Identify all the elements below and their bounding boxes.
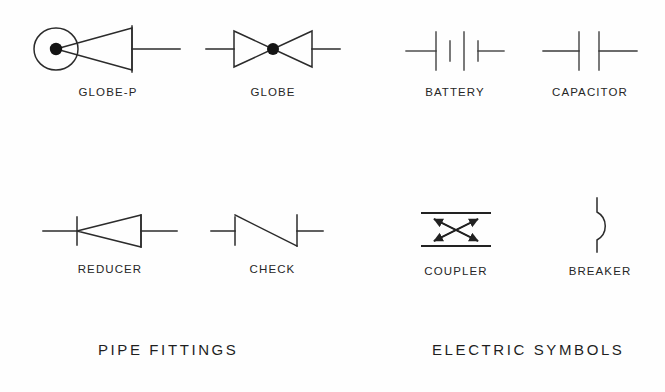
- symbol-cell-coupler: COUPLER: [408, 205, 504, 277]
- globe-icon: [198, 24, 348, 74]
- symbol-label-globe-p: GLOBE-P: [79, 86, 138, 98]
- globe-p-icon: [28, 18, 188, 80]
- symbol-label-capacitor: CAPACITOR: [552, 86, 628, 98]
- coupler-icon: [408, 205, 504, 253]
- symbol-label-battery: BATTERY: [425, 86, 485, 98]
- breaker-icon: [545, 194, 655, 254]
- symbol-cell-battery: BATTERY: [400, 24, 510, 98]
- check-icon: [205, 205, 340, 249]
- symbol-cell-globe: GLOBE: [198, 24, 348, 98]
- section-title-pipe-fittings: PIPE FITTINGS: [98, 341, 238, 358]
- symbol-cell-capacitor: CAPACITOR: [535, 24, 645, 98]
- symbol-label-breaker: BREAKER: [569, 265, 632, 277]
- symbol-label-globe: GLOBE: [250, 86, 295, 98]
- symbol-cell-reducer: REDUCER: [35, 205, 185, 275]
- symbol-cell-breaker: BREAKER: [545, 194, 655, 277]
- symbol-legend-sheet: GLOBE-P GLOBE BATTERY: [0, 0, 665, 392]
- battery-icon: [400, 24, 510, 74]
- reducer-icon: [35, 205, 185, 249]
- capacitor-icon: [535, 24, 645, 74]
- symbol-cell-check: CHECK: [205, 205, 340, 275]
- section-title-electric-symbols: ELECTRIC SYMBOLS: [432, 341, 624, 358]
- symbol-label-check: CHECK: [250, 263, 296, 275]
- symbol-label-coupler: COUPLER: [424, 265, 487, 277]
- symbol-label-reducer: REDUCER: [78, 263, 143, 275]
- symbol-cell-globe-p: GLOBE-P: [28, 18, 188, 98]
